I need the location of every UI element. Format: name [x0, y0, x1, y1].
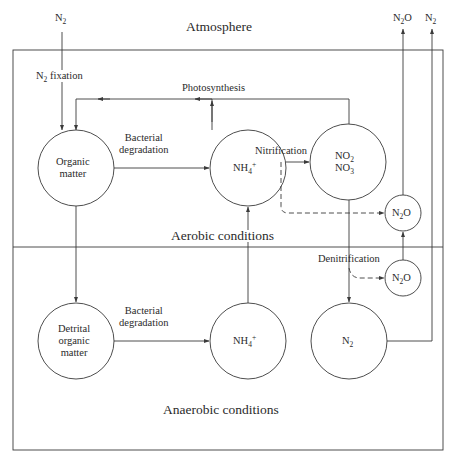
denitrification-n2o-dashed-arrow	[349, 268, 384, 278]
n2-fixation-label: N2 fixation	[36, 70, 83, 82]
anaerobic-conditions-label: Anaerobic conditions	[163, 404, 279, 416]
n2o-atmosphere-out-label: N2O	[393, 12, 412, 24]
nh4-aerobic-label: NH4+	[233, 162, 256, 174]
no2-no3-label: NO2NO3	[335, 150, 354, 174]
n2-atmosphere-out-label: N2	[425, 12, 436, 24]
nh4-anaerobic-label: NH4+	[233, 335, 256, 347]
n2-to-atmosphere-arrow	[387, 29, 432, 341]
n2o-anaerobic-label: N2O	[392, 272, 411, 284]
detrital-organic-matter-label: Detritalorganicmatter	[58, 323, 90, 359]
n2-anaerobic-label: N2	[342, 335, 353, 347]
organic-matter-label: Organicmatter	[56, 156, 90, 180]
denitrification-label: Denitrification	[318, 253, 380, 265]
bacterial-degradation-anaerobic-label: Bacterialdegradation	[119, 305, 169, 329]
n2-atmosphere-in-label: N2	[55, 12, 66, 24]
nitrification-label: Nitrification	[255, 145, 307, 157]
photosynthesis-arrow-no3	[76, 99, 349, 130]
n2o-aerobic-label: N2O	[392, 207, 411, 219]
atmosphere-label: Atmosphere	[186, 21, 252, 33]
bacterial-degradation-aerobic-label: Bacterialdegradation	[119, 132, 169, 156]
environment-box	[13, 50, 443, 450]
photosynthesis-label: Photosynthesis	[182, 82, 245, 94]
nitrification-n2o-dashed-arrow	[281, 162, 384, 213]
aerobic-conditions-label: Aerobic conditions	[169, 230, 276, 242]
